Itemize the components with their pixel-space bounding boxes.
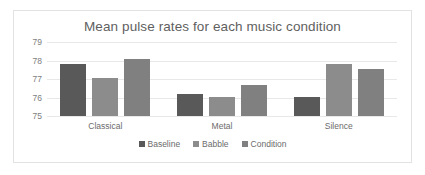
bar — [92, 78, 118, 116]
bar-group: Silence — [280, 42, 397, 116]
legend-label: Babble — [202, 139, 228, 149]
bar-groups: ClassicalMetalSilence — [47, 42, 397, 116]
x-axis-category-label: Metal — [164, 121, 281, 131]
bar — [124, 59, 150, 116]
y-axis-tick-label: 78 — [33, 56, 42, 66]
bar-group: Classical — [47, 42, 164, 116]
bar — [358, 69, 384, 116]
legend-item[interactable]: Condition — [242, 139, 287, 149]
legend-label: Condition — [251, 139, 287, 149]
x-axis-category-label: Silence — [280, 121, 397, 131]
legend-item[interactable]: Baseline — [139, 139, 181, 149]
y-axis-tick-label: 75 — [33, 111, 42, 121]
bar — [326, 64, 352, 116]
y-axis-tick-label: 76 — [33, 93, 42, 103]
gridline: 75 — [47, 116, 397, 117]
legend-label: Baseline — [148, 139, 181, 149]
bar — [241, 85, 267, 116]
y-axis-tick-label: 77 — [33, 74, 42, 84]
chart-legend: BaselineBabbleCondition — [14, 139, 411, 149]
legend-item[interactable]: Babble — [193, 139, 228, 149]
chart-container: Mean pulse rates for each music conditio… — [13, 10, 412, 163]
plot-area: 7978777675 ClassicalMetalSilence — [47, 42, 397, 116]
bar — [209, 97, 235, 116]
legend-swatch-icon — [139, 141, 145, 147]
legend-swatch-icon — [193, 141, 199, 147]
bar — [294, 97, 320, 116]
bar-group: Metal — [164, 42, 281, 116]
bar — [60, 64, 86, 116]
bar — [177, 94, 203, 116]
chart-title: Mean pulse rates for each music conditio… — [14, 19, 411, 34]
legend-swatch-icon — [242, 141, 248, 147]
x-axis-category-label: Classical — [47, 121, 164, 131]
y-axis-tick-label: 79 — [33, 37, 42, 47]
